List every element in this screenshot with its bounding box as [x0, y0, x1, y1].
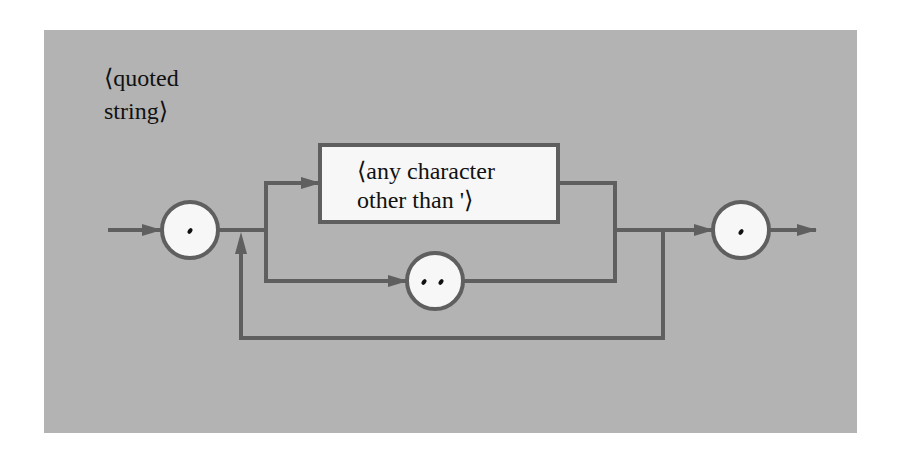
node-double-quote	[407, 253, 463, 309]
diagram-title-line1: ⟨quoted	[104, 65, 179, 91]
node-open-quote	[162, 202, 218, 258]
node-close-quote	[713, 202, 769, 258]
diagram-title-line2: string⟩	[104, 98, 168, 124]
any-char-label-line1: ⟨any character	[357, 158, 495, 184]
node-any-character: ⟨any character other than '⟩	[320, 145, 558, 222]
any-char-label-line2: other than '⟩	[357, 187, 473, 213]
syntax-diagram: ⟨quoted string⟩ ⟨any character other	[0, 0, 903, 461]
